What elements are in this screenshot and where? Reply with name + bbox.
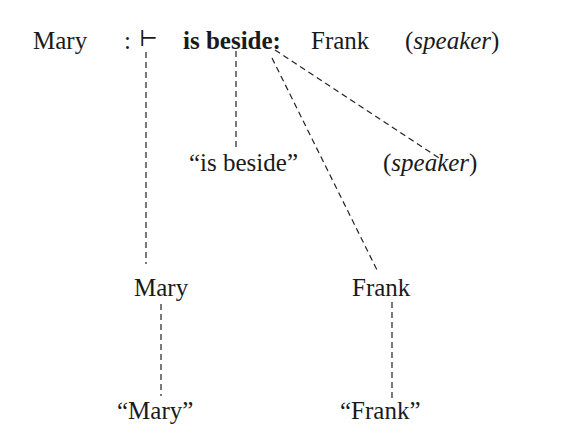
- name-quote-frank: “Frank”: [340, 398, 421, 423]
- top-speaker-label: speaker: [413, 27, 491, 54]
- predicate-to-speaker-line: [275, 50, 442, 160]
- top-colon: :: [124, 28, 131, 53]
- top-object-frank: Frank: [311, 28, 369, 53]
- predicate-quote: “is beside”: [189, 150, 298, 175]
- referent-frank: Frank: [352, 275, 410, 300]
- top-speaker-close-paren: ): [491, 27, 499, 54]
- turnstile-symbol: ⊢: [139, 28, 158, 50]
- top-speaker: (speaker): [405, 28, 499, 53]
- middle-speaker: (speaker): [383, 150, 477, 175]
- name-quote-mary: “Mary”: [117, 398, 193, 423]
- middle-speaker-label: speaker: [391, 149, 469, 176]
- top-predicate-is-beside: is beside:: [183, 28, 281, 53]
- top-subject-mary: Mary: [33, 28, 87, 53]
- dashed-connector-lines: [0, 0, 576, 446]
- referent-mary: Mary: [134, 275, 188, 300]
- middle-speaker-close-paren: ): [469, 149, 477, 176]
